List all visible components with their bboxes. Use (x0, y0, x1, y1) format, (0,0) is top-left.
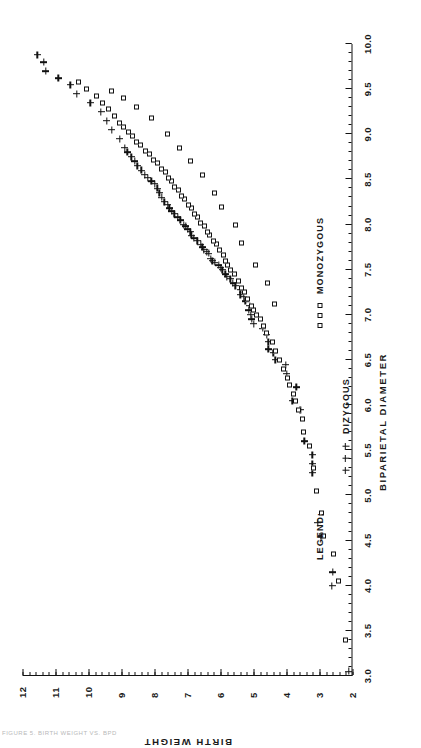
x-minor-tick (348, 332, 351, 333)
x-tick-label: 7.0 (361, 308, 372, 322)
y-minor-tick (266, 672, 267, 675)
plus-marker (40, 59, 47, 66)
y-minor-tick (35, 672, 36, 675)
y-tick-label: 11 (50, 687, 61, 698)
square-marker (293, 398, 298, 403)
square-marker (94, 94, 99, 99)
x-minor-tick (348, 233, 351, 234)
y-minor-tick (180, 672, 181, 675)
square-marker (260, 323, 265, 328)
x-tick-label: 10.0 (361, 34, 372, 54)
y-minor-tick (29, 672, 30, 675)
y-minor-tick (42, 672, 43, 675)
square-marker-icon (317, 303, 322, 328)
square-marker (239, 240, 244, 245)
legend-title: LEGEND: (314, 512, 324, 560)
square-marker (125, 130, 130, 135)
x-minor-tick (348, 522, 351, 523)
y-minor-tick (147, 672, 148, 675)
square-marker (272, 302, 277, 307)
plus-marker (33, 51, 40, 58)
plus-marker-icon (342, 443, 349, 474)
x-major-tick (345, 269, 351, 270)
square-marker (165, 175, 170, 180)
x-minor-tick (348, 567, 351, 568)
y-tick-label: 9 (116, 692, 127, 698)
y-tick-label: 7 (182, 692, 193, 698)
square-marker (204, 229, 209, 234)
x-minor-tick (348, 187, 351, 188)
x-minor-tick (348, 215, 351, 216)
x-minor-tick (348, 251, 351, 252)
y-minor-tick (326, 672, 327, 675)
x-major-tick (345, 88, 351, 89)
square-marker (142, 148, 147, 153)
figure-caption: FIGURE 5. BIRTH WEIGHT VS. BPD (2, 730, 117, 736)
square-marker (218, 204, 223, 209)
x-minor-tick (348, 278, 351, 279)
x-major-tick (345, 630, 351, 631)
y-major-tick (286, 669, 287, 675)
square-marker (84, 87, 89, 92)
square-marker (120, 96, 125, 101)
legend-label-dizygous: DIZYGOUS (340, 378, 350, 434)
x-tick-label: 8.0 (361, 217, 372, 231)
y-tick-label: 6 (215, 692, 226, 698)
square-marker (133, 139, 138, 144)
square-marker (314, 488, 319, 493)
square-marker (273, 348, 278, 353)
y-major-tick (55, 669, 56, 675)
x-major-tick (345, 224, 351, 225)
square-marker (239, 285, 244, 290)
x-minor-tick (348, 70, 351, 71)
x-minor-tick (348, 260, 351, 261)
square-marker (99, 100, 104, 105)
square-marker (280, 367, 285, 372)
y-tick-label: 12 (17, 687, 28, 698)
square-marker (264, 281, 269, 286)
x-minor-tick (348, 558, 351, 559)
plus-marker (121, 144, 128, 151)
y-minor-tick (339, 672, 340, 675)
x-axis-title: BIPARIETAL DIAMETER (376, 353, 387, 491)
x-tick-label: 4.0 (361, 579, 372, 593)
x-minor-tick (348, 621, 351, 622)
y-major-tick (253, 669, 254, 675)
x-minor-tick (348, 124, 351, 125)
y-minor-tick (227, 672, 228, 675)
y-major-tick (121, 669, 122, 675)
x-minor-tick (348, 160, 351, 161)
y-minor-tick (306, 672, 307, 675)
square-marker (133, 105, 138, 110)
y-minor-tick (62, 672, 63, 675)
y-minor-tick (240, 672, 241, 675)
y-minor-tick (161, 672, 162, 675)
square-marker (236, 278, 241, 283)
y-minor-tick (246, 672, 247, 675)
square-marker (251, 308, 256, 313)
y-minor-tick (213, 672, 214, 675)
x-minor-tick (348, 242, 351, 243)
legend-item-monozygous: MONOZYGOUS (314, 217, 324, 328)
y-minor-tick (134, 672, 135, 675)
x-major-tick (345, 133, 351, 134)
plus-marker (42, 68, 49, 75)
y-major-tick (154, 669, 155, 675)
y-minor-tick (68, 672, 69, 675)
x-tick-label: 6.5 (361, 353, 372, 367)
x-major-tick (345, 585, 351, 586)
x-minor-tick (348, 305, 351, 306)
x-minor-tick (348, 106, 351, 107)
x-major-tick (345, 359, 351, 360)
plus-marker (345, 668, 352, 675)
plus-marker (308, 451, 315, 458)
x-tick-label: 3.5 (361, 624, 372, 638)
x-minor-tick (348, 350, 351, 351)
square-marker (336, 579, 341, 584)
x-minor-tick (348, 296, 351, 297)
plus-marker (328, 582, 335, 589)
y-minor-tick (95, 672, 96, 675)
square-marker (179, 193, 184, 198)
x-minor-tick (348, 151, 351, 152)
